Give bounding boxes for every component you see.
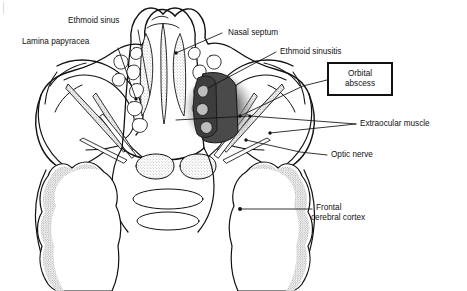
sphenoid-sinuses <box>112 148 216 232</box>
nasal-septum-shape <box>161 24 167 124</box>
label-lamina-papyracea: Lamina papyracea <box>22 37 89 47</box>
label-frontal-cerebral-cortex-line1: Frontal <box>316 203 341 213</box>
registration-mark <box>3 2 4 14</box>
orbital-abscess-shape <box>183 72 255 144</box>
label-extraocular-muscle: Extraocular muscle <box>360 119 430 129</box>
label-nasal-septum: Nasal septum <box>228 28 278 38</box>
label-orbital-abscess-box: Orbital abscess <box>327 62 393 96</box>
label-frontal-cerebral-cortex-line2: cerebral cortex <box>311 213 365 223</box>
label-optic-nerve: Optic nerve <box>331 150 373 160</box>
label-ethmoid-sinus: Ethmoid sinus <box>68 16 119 26</box>
label-orbital-abscess-line2: abscess <box>345 79 375 89</box>
label-ethmoid-sinusitis: Ethmoid sinusitis <box>280 47 341 57</box>
label-orbital-abscess-line1: Orbital <box>345 69 375 79</box>
